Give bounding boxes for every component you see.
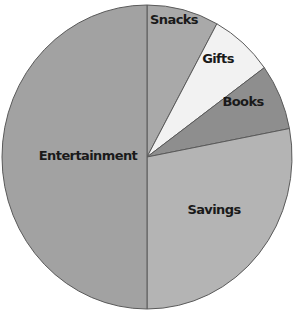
slice-savings	[147, 129, 292, 309]
label-entertainment: Entertainment	[39, 148, 138, 163]
pie-chart: Snacks Gifts Books Savings Entertainment	[0, 0, 294, 314]
label-books: Books	[222, 94, 264, 109]
label-gifts: Gifts	[202, 51, 235, 66]
label-snacks: Snacks	[150, 12, 199, 27]
label-savings: Savings	[187, 202, 241, 217]
